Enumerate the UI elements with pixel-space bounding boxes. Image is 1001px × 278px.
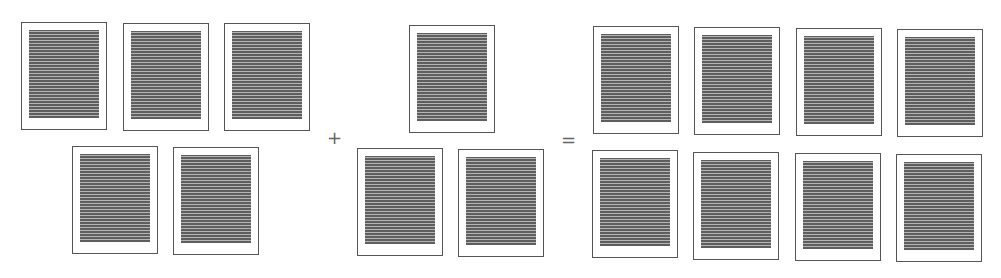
- page-text-block: [181, 155, 251, 243]
- document-page: [693, 152, 779, 260]
- page-text-block: [701, 160, 771, 248]
- equals-sign: =: [561, 131, 576, 149]
- document-page: [796, 28, 882, 136]
- document-page: [123, 23, 209, 131]
- page-text-block: [600, 158, 670, 246]
- document-page: [694, 27, 780, 135]
- document-page: [896, 154, 982, 262]
- document-page: [592, 150, 678, 258]
- document-page: [458, 149, 544, 257]
- page-text-block: [466, 157, 536, 245]
- page-text-block: [29, 30, 99, 118]
- document-page: [593, 26, 679, 134]
- page-text-block: [904, 162, 974, 250]
- page-text-block: [702, 35, 772, 123]
- document-page: [357, 148, 443, 256]
- page-text-block: [417, 33, 487, 121]
- document-page: [795, 153, 881, 261]
- plus-sign: +: [327, 129, 342, 147]
- page-text-block: [601, 34, 671, 122]
- page-text-block: [905, 37, 975, 125]
- document-page: [409, 25, 495, 133]
- page-text-block: [804, 36, 874, 124]
- document-page: [897, 29, 983, 137]
- document-page: [224, 23, 310, 131]
- document-page: [21, 22, 107, 130]
- page-text-block: [131, 31, 201, 119]
- page-text-block: [80, 154, 150, 242]
- document-page: [173, 147, 259, 255]
- page-text-block: [803, 161, 873, 249]
- page-text-block: [232, 31, 302, 119]
- page-text-block: [365, 156, 435, 244]
- document-page: [72, 146, 158, 254]
